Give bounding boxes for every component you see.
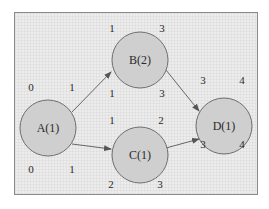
node-c-early-start: 1 — [109, 114, 115, 126]
edge-a-c — [72, 144, 111, 149]
node-a-late-start: 0 — [28, 163, 34, 175]
node-b-late-start: 1 — [109, 87, 115, 99]
node-d-late-start: 3 — [200, 138, 206, 150]
node-a-early-start: 0 — [28, 81, 34, 93]
node-d-early-finish: 4 — [239, 74, 245, 86]
node-a-early-finish: 1 — [69, 81, 75, 93]
edge-a-b — [72, 72, 111, 112]
node-d-late-finish: 4 — [239, 138, 245, 150]
node-b-label: B(2) — [129, 53, 151, 67]
node-d-early-start: 3 — [200, 74, 206, 86]
node-d-label: D(1) — [213, 119, 236, 133]
edge-b-d — [166, 70, 199, 111]
node-b-early-start: 1 — [109, 22, 115, 34]
node-a-late-finish: 1 — [69, 163, 75, 175]
node-b-late-finish: 3 — [159, 87, 165, 99]
node-b-early-finish: 3 — [159, 22, 165, 34]
node-c-late-finish: 3 — [157, 178, 163, 190]
node-a-label: A(1) — [37, 121, 60, 135]
node-d: D(1) 3 4 3 4 — [196, 74, 252, 154]
activity-network-diagram: A(1) 0 1 0 1 B(2) 1 3 1 3 C(1) 1 2 2 3 D… — [0, 0, 269, 209]
node-c-early-finish: 2 — [158, 114, 164, 126]
node-c-label: C(1) — [129, 148, 151, 162]
node-c-late-start: 2 — [108, 178, 114, 190]
node-b: B(2) 1 3 1 3 — [109, 22, 168, 99]
node-a: A(1) 0 1 0 1 — [20, 81, 76, 175]
node-c: C(1) 1 2 2 3 — [108, 114, 168, 190]
edge-c-d — [166, 139, 199, 148]
